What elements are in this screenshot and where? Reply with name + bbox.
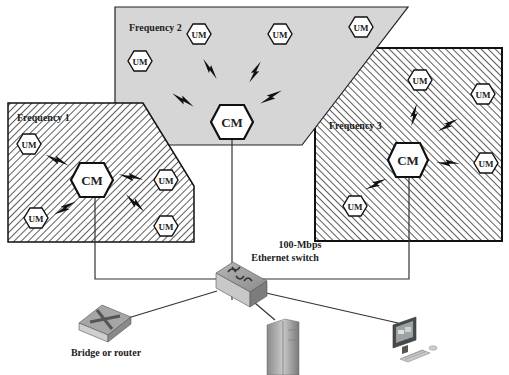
user-node[interactable]: UM [474, 153, 498, 173]
cm-label: CM [221, 115, 243, 130]
user-node[interactable]: UM [24, 208, 48, 228]
user-node[interactable]: UM [349, 17, 373, 37]
user-node[interactable]: UM [343, 196, 367, 216]
svg-text:UM: UM [413, 76, 428, 86]
svg-text:UM: UM [159, 176, 174, 186]
svg-text:UM: UM [192, 30, 207, 40]
wire-switch-workstation [266, 293, 398, 323]
network-diagram: Frequency 2 Frequency 1 Frequency 3 CM C… [0, 0, 509, 375]
wire-switch-bridge [128, 291, 217, 318]
switch-label-speed: 100-Mbps [279, 239, 322, 250]
svg-text:UM: UM [354, 23, 369, 33]
svg-text:UM: UM [273, 30, 288, 40]
label-frequency-2: Frequency 2 [129, 22, 182, 33]
bridge-router-label: Bridge or router [71, 347, 142, 358]
controller-node-freq2[interactable]: CM [211, 105, 253, 139]
user-node[interactable]: UM [154, 216, 178, 236]
server-icon[interactable] [267, 319, 299, 375]
user-node[interactable]: UM [128, 51, 152, 71]
svg-text:UM: UM [29, 214, 44, 224]
user-node[interactable]: UM [154, 170, 178, 190]
cm-label: CM [81, 173, 103, 188]
label-frequency-3: Frequency 3 [329, 120, 382, 131]
cm-label: CM [397, 153, 419, 168]
svg-text:UM: UM [348, 202, 363, 212]
svg-text:UM: UM [476, 90, 491, 100]
user-node[interactable]: UM [408, 70, 432, 90]
user-node[interactable]: UM [187, 24, 211, 44]
svg-text:UM: UM [479, 159, 494, 169]
svg-text:UM: UM [159, 222, 174, 232]
controller-node-freq3[interactable]: CM [388, 143, 428, 177]
user-node[interactable]: UM [17, 134, 41, 154]
user-node[interactable]: UM [471, 84, 495, 104]
switch-label-type: Ethernet switch [251, 252, 319, 263]
svg-text:UM: UM [22, 140, 37, 150]
user-node[interactable]: UM [268, 24, 292, 44]
controller-node-freq1[interactable]: CM [71, 163, 113, 197]
label-frequency-1: Frequency 1 [17, 112, 70, 123]
ethernet-switch-icon[interactable] [216, 262, 267, 307]
svg-text:UM: UM [133, 57, 148, 67]
wire-switch-server [255, 303, 275, 320]
workstation-icon[interactable] [393, 317, 437, 362]
bridge-router-icon[interactable] [79, 305, 131, 342]
